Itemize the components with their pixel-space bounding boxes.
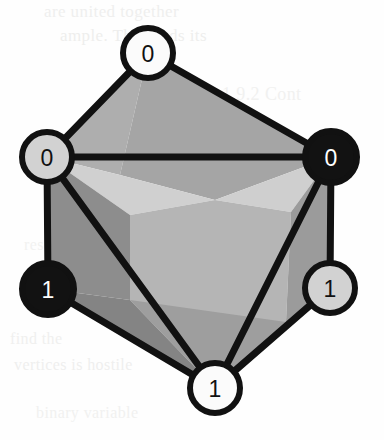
graph-diagram: 000111: [0, 0, 384, 440]
node-circle[interactable]: [22, 132, 72, 182]
graph-node-bottom-left[interactable]: 1: [22, 263, 74, 315]
graph-node-top[interactable]: 0: [123, 28, 173, 78]
node-circle[interactable]: [190, 363, 240, 413]
node-circle[interactable]: [305, 131, 357, 183]
node-circle[interactable]: [123, 28, 173, 78]
graph-node-bottom-right[interactable]: 1: [305, 263, 355, 313]
graph-node-left[interactable]: 0: [22, 132, 72, 182]
node-circle[interactable]: [305, 263, 355, 313]
node-circle[interactable]: [22, 263, 74, 315]
figure-root: are united togetherample. This finds its…: [0, 0, 384, 440]
graph-node-bottom-center[interactable]: 1: [190, 363, 240, 413]
graph-node-right[interactable]: 0: [305, 131, 357, 183]
